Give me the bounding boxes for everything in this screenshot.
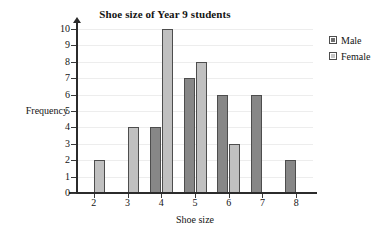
y-tick-label: 8 (54, 56, 70, 67)
x-tick-label: 6 (219, 197, 239, 208)
dark-gray-square-icon (329, 36, 337, 44)
x-tick-label: 7 (252, 197, 272, 208)
x-tick-label: 5 (185, 197, 205, 208)
bar-female-3 (128, 127, 139, 193)
y-tick-label: 0 (54, 187, 70, 198)
bar-male-5 (184, 78, 195, 193)
y-tick (71, 177, 76, 178)
bar-male-7 (251, 95, 262, 193)
bar-male-8 (285, 160, 296, 193)
y-tick (71, 111, 76, 112)
y-tick (71, 193, 76, 194)
y-tick-label: 4 (54, 121, 70, 132)
y-tick (71, 160, 76, 161)
bar-female-2 (94, 160, 105, 193)
x-axis-line (69, 192, 317, 194)
y-tick (71, 127, 76, 128)
y-tick-label: 6 (54, 89, 70, 100)
y-tick-label: 3 (54, 138, 70, 149)
y-tick (71, 78, 76, 79)
y-tick (71, 95, 76, 96)
bar-female-4 (162, 29, 173, 193)
y-tick-label: 1 (54, 171, 70, 182)
y-tick-label: 2 (54, 154, 70, 165)
legend-item-female[interactable]: Female (329, 49, 387, 63)
bar-female-6 (229, 144, 240, 193)
light-gray-square-icon (329, 52, 337, 60)
bar-female-5 (196, 62, 207, 193)
x-tick-label: 4 (151, 197, 171, 208)
chart-legend: MaleFemale (329, 33, 387, 65)
y-tick-label: 9 (54, 39, 70, 50)
x-tick-label: 2 (84, 197, 104, 208)
y-tick (71, 29, 76, 30)
y-tick (71, 144, 76, 145)
y-tick-label: 7 (54, 72, 70, 83)
y-tick-label: 10 (54, 23, 70, 34)
x-axis-title: Shoe size (77, 214, 313, 225)
y-tick (71, 62, 76, 63)
y-tick (71, 45, 76, 46)
legend-label: Female (341, 51, 370, 62)
bars-layer (77, 29, 313, 193)
x-tick-label: 3 (118, 197, 138, 208)
legend-label: Male (341, 35, 362, 46)
y-axis-title: Frequency (8, 105, 68, 116)
bar-male-4 (150, 127, 161, 193)
plot-area (77, 29, 313, 193)
y-axis-line (76, 22, 78, 194)
x-tick-label: 8 (286, 197, 306, 208)
bar-male-6 (217, 95, 228, 193)
legend-item-male[interactable]: Male (329, 33, 387, 47)
chart-title: Shoe size of Year 9 students (0, 8, 330, 20)
bar-chart: Shoe size of Year 9 students 01234567891… (0, 0, 389, 238)
